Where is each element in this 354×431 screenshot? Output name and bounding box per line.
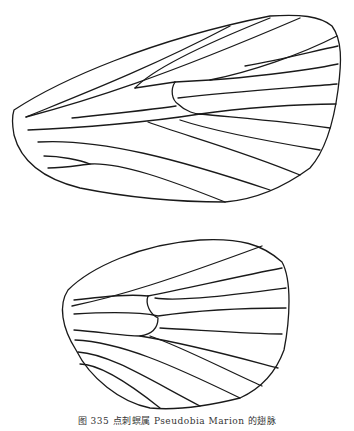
figure-caption: 图 335 点刺螟属 Pseudobia Marion 的翅脉 [0,414,354,427]
wing-venation-figure: 图 335 点刺螟属 Pseudobia Marion 的翅脉 [0,0,354,431]
forewing-diagram [13,15,341,202]
forewing-outline [13,15,341,202]
hindwing-diagram [62,240,289,409]
